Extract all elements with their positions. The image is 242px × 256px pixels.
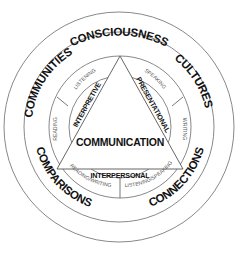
label-interpersonal: INTERPERSONAL <box>91 171 151 180</box>
label-reading: READING <box>52 117 58 141</box>
divider-speaking-writing <box>172 97 183 106</box>
label-communities: COMMUNITIES <box>22 45 74 118</box>
communication-diagram: CONSCIOUSNESS COMMUNITIES CULTURES COMPA… <box>0 0 242 256</box>
label-consciousness: CONSCIOUSNESS <box>68 26 171 49</box>
label-communication: COMMUNICATION <box>76 136 164 148</box>
communication-triangle <box>57 56 183 169</box>
label-writing: WRITING <box>182 118 188 140</box>
label-cultures: CULTURES <box>173 51 216 109</box>
divider-listening-reading <box>57 97 68 106</box>
